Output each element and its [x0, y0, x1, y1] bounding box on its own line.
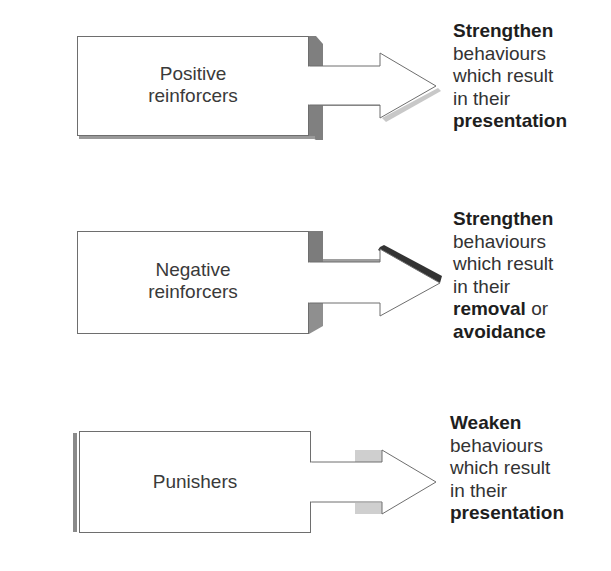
- outcome-line: behaviours: [450, 435, 564, 458]
- outcome-object: presentation: [453, 110, 567, 131]
- outcome-line: which result: [453, 253, 553, 276]
- outcome-line: in their: [453, 276, 553, 299]
- outcome-line: in their: [453, 88, 567, 111]
- outcome-text-1: Strengthen behaviours which result in th…: [453, 20, 567, 133]
- outcome-line: which result: [450, 457, 564, 480]
- outcome-line: behaviours: [453, 43, 567, 66]
- box-1-shadow-top: [309, 36, 323, 66]
- label-line-1: Negative: [78, 259, 308, 281]
- outcome-text-2: Strengthen behaviours which result in th…: [453, 208, 553, 343]
- box-2-shadow-top: [309, 231, 323, 262]
- label-line-2: reinforcers: [78, 85, 308, 107]
- outcome-text-3: Weaken behaviours which result in their …: [450, 412, 564, 525]
- outcome-verb: Weaken: [450, 412, 521, 433]
- label-line-1: Punishers: [80, 471, 310, 493]
- outcome-verb: Strengthen: [453, 20, 553, 41]
- box-1-shadow-bottom: [309, 105, 323, 140]
- box-2-shadow-bottom: [309, 303, 323, 334]
- arrow-3-shaft-shadow-bottom: [355, 503, 382, 514]
- outcome-object: presentation: [450, 502, 564, 523]
- negative-reinforcers-label: Negative reinforcers: [78, 259, 308, 303]
- outcome-line: behaviours: [453, 231, 553, 254]
- arrow-3-shaft-shadow-top: [355, 450, 382, 462]
- outcome-suffix: or: [526, 298, 548, 319]
- outcome-object: removal: [453, 298, 526, 319]
- outcome-line: in their: [450, 480, 564, 503]
- label-line-1: Positive: [78, 63, 308, 85]
- outcome-verb: Strengthen: [453, 208, 553, 229]
- box-3-shadow-left: [73, 433, 77, 532]
- outcome-line: which result: [453, 65, 567, 88]
- punishers-label: Punishers: [80, 471, 310, 493]
- outcome-object-2: avoidance: [453, 321, 546, 342]
- positive-reinforcers-label: Positive reinforcers: [78, 63, 308, 107]
- arrow-1-icon: [309, 53, 436, 118]
- label-line-2: reinforcers: [78, 281, 308, 303]
- box-1-shadow-base: [79, 136, 315, 139]
